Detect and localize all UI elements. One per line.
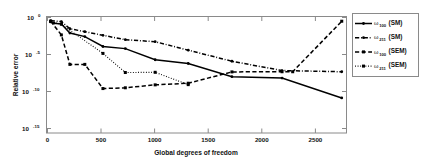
series-2-marker xyxy=(101,87,104,90)
series-1-marker xyxy=(102,34,105,37)
y-tick-label-2-exponent: -10 xyxy=(33,87,40,92)
series-3 xyxy=(49,20,190,86)
x-tick-label-2: 1000 xyxy=(148,136,162,143)
series-2-marker xyxy=(154,83,157,86)
series-3-marker xyxy=(101,52,104,55)
legend-suffix-3: (SEM) xyxy=(389,61,407,69)
series-3-marker xyxy=(124,71,127,74)
legend-subscript-0: 100 xyxy=(379,23,387,28)
series-2-marker xyxy=(291,70,294,73)
series-1-marker xyxy=(340,70,343,73)
x-axis-title: Global degrees of freedom xyxy=(154,149,238,157)
y-tick-label-1-exponent: -5 xyxy=(36,50,40,55)
series-3-marker xyxy=(187,83,190,86)
legend-sample-marker-1 xyxy=(362,36,365,39)
y-tick-label-0-exponent: 0 xyxy=(38,13,41,18)
y-tick-label-3-exponent: -15 xyxy=(33,124,40,129)
legend-suffix-0: (SM) xyxy=(389,19,403,27)
series-2-marker xyxy=(340,20,343,23)
series-2-marker xyxy=(281,70,284,73)
series-2-marker xyxy=(124,86,127,89)
x-tick-label-4: 2000 xyxy=(255,136,269,143)
series-1-marker xyxy=(60,20,63,23)
series-2-marker xyxy=(60,33,63,36)
series-line-2 xyxy=(51,21,342,88)
x-tick-label-5: 2500 xyxy=(309,136,323,143)
series-1-marker xyxy=(124,38,127,41)
legend-sample-marker-3 xyxy=(362,65,365,68)
x-tick-label-0: 0 xyxy=(46,136,50,143)
relative-error-log-plot: 10 0 10 -5 10 -10 10 -15 0 xyxy=(0,0,422,163)
series-0-marker xyxy=(154,58,157,61)
y-axis-title: Relative error xyxy=(12,53,19,96)
series-0-marker xyxy=(83,35,86,38)
series-1-marker xyxy=(187,49,190,52)
series-2 xyxy=(49,20,343,90)
legend-subscript-1: 211 xyxy=(379,37,386,42)
series-line-3 xyxy=(51,22,189,85)
y-tick-label-0-mantissa: 10 xyxy=(27,14,34,21)
series-0-marker xyxy=(340,97,343,100)
data-series-layer xyxy=(49,19,343,99)
series-0-marker xyxy=(187,62,190,65)
legend-subscript-3: 211 xyxy=(379,66,386,71)
y-tick-label-3-mantissa: 10 xyxy=(22,125,29,132)
series-1-marker xyxy=(154,40,157,43)
series-0-marker xyxy=(231,75,234,78)
series-0-marker xyxy=(102,45,105,48)
series-0-marker xyxy=(281,77,284,80)
legend-sample-marker-2 xyxy=(362,50,365,53)
series-2-marker xyxy=(83,63,86,66)
x-tick-label-1: 500 xyxy=(96,136,107,143)
x-tick-label-3: 1500 xyxy=(201,136,215,143)
x-axis-tick-labels: 0 500 1000 1500 2000 2500 xyxy=(46,136,323,143)
y-tick-label-1-mantissa: 10 xyxy=(25,51,32,58)
series-0-marker xyxy=(68,32,71,35)
series-3-marker xyxy=(154,71,157,74)
series-1-marker xyxy=(231,60,234,63)
x-axis-ticks xyxy=(48,17,316,134)
legend-sample-marker-0 xyxy=(362,22,365,25)
series-0-marker xyxy=(124,47,127,50)
figure-container: 10 0 10 -5 10 -10 10 -15 0 xyxy=(0,0,422,163)
y-tick-label-2-mantissa: 10 xyxy=(22,88,29,95)
series-line-1 xyxy=(51,21,342,72)
series-2-marker xyxy=(230,70,233,73)
plot-frame xyxy=(47,17,347,134)
series-3-marker xyxy=(49,20,52,23)
y-axis-tick-labels: 10 0 10 -5 10 -10 10 -15 xyxy=(22,13,41,133)
series-3-marker xyxy=(60,23,63,26)
legend-suffix-2: (SEM) xyxy=(389,47,407,55)
series-2-marker xyxy=(68,63,71,66)
series-0 xyxy=(49,20,343,99)
legend-suffix-1: (SM) xyxy=(389,33,403,41)
series-1-marker xyxy=(83,30,86,33)
legend-subscript-2: 100 xyxy=(379,52,387,57)
